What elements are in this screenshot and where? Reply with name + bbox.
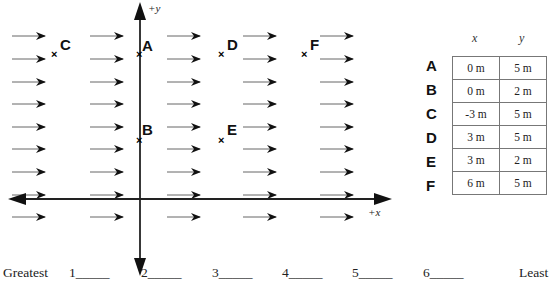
point-C: × C xyxy=(51,36,71,60)
table-row: 6 m5 m xyxy=(453,172,547,195)
table-row: 3 m2 m xyxy=(453,149,547,172)
cell-b-x: 0 m xyxy=(453,80,500,103)
cell-c-y: 5 m xyxy=(500,103,547,126)
ranking-slot-3[interactable]: 3_____ xyxy=(212,265,253,281)
cell-a-y: 5 m xyxy=(500,57,547,80)
svg-text:F: F xyxy=(310,36,319,53)
svg-text:B: B xyxy=(142,121,153,138)
point-F: × F xyxy=(301,36,319,60)
x-mark-icon: × xyxy=(218,134,224,146)
cell-a-x: 0 m xyxy=(453,57,500,80)
table-row-label-f: F xyxy=(426,177,435,194)
table-row-label-b: B xyxy=(426,81,437,98)
x-axis: +x xyxy=(8,193,392,218)
x-axis-label: +x xyxy=(368,206,380,218)
cell-f-x: 6 m xyxy=(453,172,500,195)
svg-text:A: A xyxy=(142,37,153,54)
cell-d-x: 3 m xyxy=(453,126,500,149)
cell-f-y: 5 m xyxy=(500,172,547,195)
y-axis-label: +y xyxy=(148,2,160,14)
ranking-start-label: Greatest xyxy=(3,265,48,281)
coordinates-table: 0 m5 m 0 m2 m -3 m5 m 3 m5 m 3 m2 m 6 m5… xyxy=(452,56,547,195)
ranking-slot-1[interactable]: 1_____ xyxy=(69,265,110,281)
svg-text:C: C xyxy=(60,36,71,53)
svg-text:D: D xyxy=(227,36,238,53)
cell-c-x: -3 m xyxy=(453,103,500,126)
table-row: 0 m2 m xyxy=(453,80,547,103)
table-header-x: x xyxy=(472,31,477,46)
field-diagram: +y +x × A × B × C × D × E × F xyxy=(0,0,410,294)
ranking-slot-6[interactable]: 6_____ xyxy=(423,265,464,281)
y-axis-up-arrow-icon xyxy=(134,2,146,20)
cell-e-x: 3 m xyxy=(453,149,500,172)
table-row: 0 m5 m xyxy=(453,57,547,80)
x-mark-icon: × xyxy=(301,48,307,60)
ranking-end-label: Least xyxy=(519,265,548,281)
table-row: -3 m5 m xyxy=(453,103,547,126)
field-arrows xyxy=(12,36,353,217)
ranking-slot-4[interactable]: 4_____ xyxy=(282,265,323,281)
ranking-slot-2[interactable]: 2_____ xyxy=(141,265,182,281)
x-axis-right-arrow-icon xyxy=(374,193,392,205)
cell-b-y: 2 m xyxy=(500,80,547,103)
point-B: × B xyxy=(136,121,153,146)
table-row: 3 m5 m xyxy=(453,126,547,149)
table-row-label-c: C xyxy=(426,105,437,122)
cell-d-y: 5 m xyxy=(500,126,547,149)
x-mark-icon: × xyxy=(51,48,57,60)
point-E: × E xyxy=(218,121,237,146)
table-header-y: y xyxy=(519,31,524,46)
table-row-label-d: D xyxy=(426,129,437,146)
svg-text:E: E xyxy=(227,121,237,138)
ranking-slot-5[interactable]: 5_____ xyxy=(352,265,393,281)
point-D: × D xyxy=(218,36,238,60)
table-row-label-a: A xyxy=(426,57,437,74)
x-mark-icon: × xyxy=(218,48,224,60)
point-A: × A xyxy=(136,37,153,60)
table-row-label-e: E xyxy=(426,153,436,170)
cell-e-y: 2 m xyxy=(500,149,547,172)
